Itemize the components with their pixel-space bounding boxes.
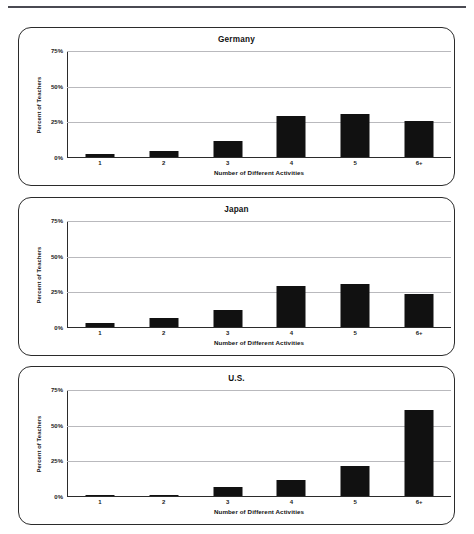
bar-slot: 2 bbox=[132, 50, 196, 157]
bar-slot: 2 bbox=[132, 220, 196, 327]
y-axis-title-label: Percent of Teachers bbox=[36, 246, 42, 303]
bar bbox=[149, 495, 178, 497]
bar-slot: 3 bbox=[196, 50, 260, 157]
y-axis-title: Percent of Teachers bbox=[33, 221, 45, 328]
bar bbox=[85, 495, 114, 497]
bar bbox=[341, 114, 370, 157]
y-axis-title-label: Percent of Teachers bbox=[36, 76, 42, 133]
x-tick-label: 2 bbox=[132, 160, 196, 166]
x-tick-label: 2 bbox=[132, 499, 196, 505]
bar-slot: 3 bbox=[196, 389, 260, 496]
bar-slot: 6+ bbox=[387, 50, 451, 157]
bar bbox=[405, 410, 434, 496]
bar bbox=[85, 323, 114, 327]
x-axis-line bbox=[67, 327, 451, 328]
bar bbox=[277, 116, 306, 157]
top-divider-rule bbox=[8, 6, 466, 8]
x-axis-line bbox=[67, 157, 451, 158]
y-tick-label-25: 25% bbox=[51, 119, 63, 125]
chart-title: U.S. bbox=[19, 374, 454, 383]
bar-group: 123456+ bbox=[68, 220, 451, 327]
bar-group: 123456+ bbox=[68, 389, 451, 496]
bar bbox=[341, 466, 370, 496]
y-tick-label-75: 75% bbox=[51, 48, 63, 54]
bar bbox=[277, 480, 306, 496]
bar bbox=[341, 284, 370, 327]
bar-slot: 4 bbox=[260, 50, 324, 157]
x-axis-title: Number of Different Activities bbox=[67, 508, 451, 515]
bar-slot: 1 bbox=[68, 220, 132, 327]
bar-slot: 5 bbox=[323, 220, 387, 327]
bar-slot: 6+ bbox=[387, 389, 451, 496]
bar-slot: 3 bbox=[196, 220, 260, 327]
x-axis-line bbox=[67, 496, 451, 497]
y-axis-title: Percent of Teachers bbox=[33, 390, 45, 497]
bar-slot: 1 bbox=[68, 50, 132, 157]
bar bbox=[213, 310, 242, 327]
y-tick-label-0: 0% bbox=[54, 155, 63, 161]
bar-slot: 2 bbox=[132, 389, 196, 496]
bar bbox=[405, 294, 434, 327]
x-tick-label: 5 bbox=[323, 330, 387, 336]
x-tick-label: 4 bbox=[260, 160, 324, 166]
x-tick-label: 1 bbox=[68, 499, 132, 505]
chart-panel-germany: Germany Percent of Teachers 75% 50% 25% … bbox=[18, 27, 455, 186]
bar bbox=[85, 154, 114, 157]
bar-slot: 6+ bbox=[387, 220, 451, 327]
y-tick-label-25: 25% bbox=[51, 458, 63, 464]
y-axis-title-label: Percent of Teachers bbox=[36, 415, 42, 472]
bar-slot: 5 bbox=[323, 50, 387, 157]
x-tick-label: 6+ bbox=[387, 330, 451, 336]
x-axis-title: Number of Different Activities bbox=[67, 339, 451, 346]
x-tick-label: 4 bbox=[260, 499, 324, 505]
bar-slot: 4 bbox=[260, 220, 324, 327]
plot-area: 75% 50% 25% 0% 123456+ bbox=[67, 221, 451, 328]
x-tick-label: 3 bbox=[196, 330, 260, 336]
x-tick-label: 5 bbox=[323, 499, 387, 505]
chart-panel-us: U.S. Percent of Teachers 75% 50% 25% 0% … bbox=[18, 366, 455, 525]
bar-slot: 4 bbox=[260, 389, 324, 496]
x-tick-label: 6+ bbox=[387, 160, 451, 166]
bar bbox=[405, 121, 434, 157]
chart-panel-japan: Japan Percent of Teachers 75% 50% 25% 0%… bbox=[18, 197, 455, 356]
bar-slot: 5 bbox=[323, 389, 387, 496]
x-axis-title: Number of Different Activities bbox=[67, 169, 451, 176]
y-tick-label-50: 50% bbox=[51, 254, 63, 260]
x-tick-label: 2 bbox=[132, 330, 196, 336]
y-tick-label-75: 75% bbox=[51, 218, 63, 224]
y-tick-label-50: 50% bbox=[51, 84, 63, 90]
bar-slot: 1 bbox=[68, 389, 132, 496]
x-tick-label: 3 bbox=[196, 160, 260, 166]
chart-title: Japan bbox=[19, 205, 454, 214]
plot-area: 75% 50% 25% 0% 123456+ bbox=[67, 51, 451, 158]
figure-page: Germany Percent of Teachers 75% 50% 25% … bbox=[0, 0, 474, 534]
y-tick-label-50: 50% bbox=[51, 423, 63, 429]
x-tick-label: 5 bbox=[323, 160, 387, 166]
x-tick-label: 1 bbox=[68, 330, 132, 336]
y-tick-label-0: 0% bbox=[54, 494, 63, 500]
y-tick-label-0: 0% bbox=[54, 325, 63, 331]
bar bbox=[213, 141, 242, 157]
bar bbox=[149, 318, 178, 327]
bar bbox=[213, 487, 242, 496]
x-tick-label: 4 bbox=[260, 330, 324, 336]
x-tick-label: 3 bbox=[196, 499, 260, 505]
y-axis-title: Percent of Teachers bbox=[33, 51, 45, 158]
x-tick-label: 1 bbox=[68, 160, 132, 166]
chart-title: Germany bbox=[19, 35, 454, 44]
x-tick-label: 6+ bbox=[387, 499, 451, 505]
y-tick-label-75: 75% bbox=[51, 387, 63, 393]
bar bbox=[149, 151, 178, 157]
bar-group: 123456+ bbox=[68, 50, 451, 157]
plot-area: 75% 50% 25% 0% 123456+ bbox=[67, 390, 451, 497]
bar bbox=[277, 286, 306, 327]
y-tick-label-25: 25% bbox=[51, 289, 63, 295]
